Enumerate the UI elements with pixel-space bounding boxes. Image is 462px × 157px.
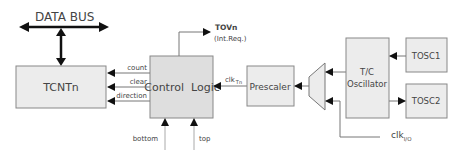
control-logic-label: Control Logic	[144, 81, 220, 94]
oscillator-block: T/C Oscillator	[346, 38, 389, 118]
tosc2-label: TOSC2	[411, 96, 441, 106]
top-label: top	[199, 135, 211, 143]
data-bus: DATA BUS	[19, 10, 109, 66]
prescaler-block: Prescaler	[247, 66, 294, 106]
bus-up-arrowhead-icon	[56, 28, 66, 36]
tcnt-block: TCNTn	[16, 66, 106, 108]
oscillator-label-line2: Oscillator	[347, 79, 388, 89]
svg-text:clkTn: clkTn	[225, 76, 242, 85]
control-signals: count clear direction	[108, 64, 150, 101]
mux-icon	[309, 63, 325, 110]
clear-label: clear	[130, 78, 147, 86]
tcnt-label: TCNTn	[42, 81, 79, 94]
oscillator-label-line1: T/C	[359, 67, 374, 77]
clk-io-label: clk	[391, 130, 404, 140]
clk-io-subscript: I/O	[404, 136, 412, 142]
tov-note: (Int.Req.)	[214, 35, 247, 43]
clk-tn-label: clk	[225, 76, 236, 84]
tov-arrow	[179, 32, 210, 56]
data-bus-label: DATA BUS	[35, 10, 94, 24]
svg-text:clkI/O: clkI/O	[391, 130, 412, 142]
tosc1-block: TOSC1	[390, 38, 447, 72]
data-bus-left-arrowhead-icon	[19, 22, 29, 32]
control-logic-block: Control Logic	[144, 56, 220, 118]
clk-tn-subscript: Tn	[235, 79, 242, 85]
timer-counter-diagram: DATA BUS TCNTn Control Logic count clear…	[0, 0, 462, 157]
tosc2-block: TOSC2	[389, 84, 447, 118]
count-label: count	[127, 64, 147, 72]
bottom-label: bottom	[133, 135, 158, 143]
data-bus-right-arrowhead-icon	[99, 22, 109, 32]
bus-down-arrowhead-icon	[56, 58, 66, 66]
tosc1-label: TOSC1	[411, 51, 441, 61]
direction-label: direction	[116, 92, 147, 100]
tov-output: TOVn (Int.Req.)	[179, 23, 247, 56]
prescaler-label: Prescaler	[249, 82, 290, 92]
bottom-top-inputs: bottom top	[133, 119, 211, 150]
tov-label: TOVn	[215, 23, 237, 32]
